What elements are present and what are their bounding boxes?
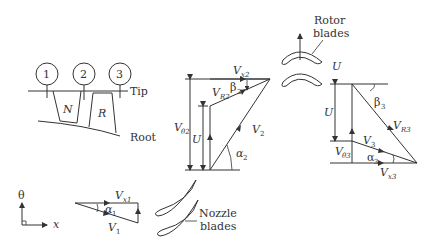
svg-text:blades: blades xyxy=(200,220,237,233)
rotor-label: R xyxy=(97,107,106,120)
x-axis-label: x xyxy=(53,218,60,231)
svg-text:2: 2 xyxy=(243,154,247,162)
tip-label: Tip xyxy=(130,85,148,98)
nozzle-label: N xyxy=(62,103,73,116)
station-2-label: 2 xyxy=(80,68,87,81)
svg-text:U: U xyxy=(324,106,334,119)
station-3-label: 3 xyxy=(116,68,123,81)
vr3-vector xyxy=(352,84,417,163)
root-line xyxy=(38,121,120,136)
svg-text:U: U xyxy=(192,133,202,146)
svg-text:x3: x3 xyxy=(388,173,397,181)
svg-text:3: 3 xyxy=(371,141,375,149)
rotor-blades-label: Rotor xyxy=(314,14,346,27)
coordinate-axes: θ x xyxy=(18,189,60,231)
stage-passage: 1 2 3 Tip Root N R xyxy=(28,63,157,144)
rotor-blades: Rotor blades U xyxy=(282,14,350,87)
svg-text:R2: R2 xyxy=(219,93,230,101)
root-label: Root xyxy=(130,131,157,144)
svg-text:x1: x1 xyxy=(123,196,131,204)
svg-text:3: 3 xyxy=(381,103,385,111)
inlet-velocity-triangle: V x1 α 1 V 1 xyxy=(75,189,141,236)
theta-axis-label: θ xyxy=(18,189,25,202)
svg-text:R3: R3 xyxy=(400,126,411,134)
rotor-exit-velocity-triangle: β 3 V R3 U V 3 V θ3 α 3 V x3 xyxy=(324,84,417,181)
svg-text:3: 3 xyxy=(374,158,378,166)
svg-text:θ3: θ3 xyxy=(342,152,351,160)
svg-text:β: β xyxy=(230,81,236,94)
svg-text:blades: blades xyxy=(313,27,350,40)
station-1-label: 1 xyxy=(43,68,50,81)
svg-text:β: β xyxy=(374,96,380,109)
svg-text:2: 2 xyxy=(260,130,264,138)
svg-text:1: 1 xyxy=(116,228,120,236)
nozzle-exit-velocity-triangle: V x2 V R2 β 2 V θ2 U V 2 α 2 xyxy=(174,64,270,170)
nozzle-blades-label: Nozzle xyxy=(199,207,237,220)
svg-text:2: 2 xyxy=(237,88,241,96)
svg-text:1: 1 xyxy=(112,210,116,218)
turbine-stage-diagram: 1 2 3 Tip Root N R θ x V x1 α 1 V 1 xyxy=(0,0,435,246)
svg-text:θ2: θ2 xyxy=(181,128,190,136)
svg-text:x2: x2 xyxy=(241,71,250,79)
nozzle-blades: Nozzle blades xyxy=(155,180,236,236)
svg-text:U: U xyxy=(332,60,342,73)
